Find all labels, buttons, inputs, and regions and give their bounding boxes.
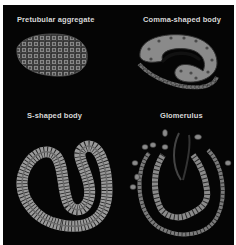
pretubular-aggregate-drawing: [17, 34, 87, 76]
diagram-panel: Pretubular aggregate Comma-shaped body S…: [3, 5, 234, 245]
comma-shaped-body-drawing: [139, 35, 217, 88]
s-shaped-body-drawing: [22, 146, 107, 226]
glomerulus-drawing: [130, 130, 231, 235]
illustrations: [3, 5, 234, 245]
